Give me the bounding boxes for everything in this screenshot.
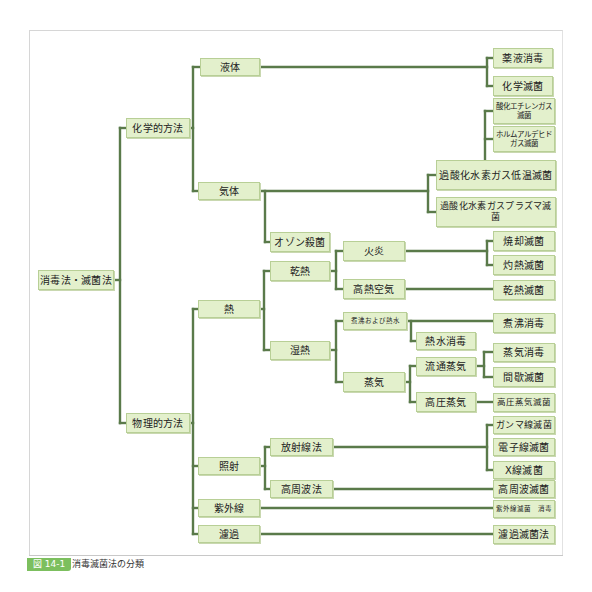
figure-number-badge: 図 14-1: [27, 558, 71, 571]
node-steam-disinfection: 蒸気消毒: [493, 343, 555, 362]
node-ultraviolet: 紫外線: [198, 499, 260, 517]
node-incineration: 焼却滅菌: [493, 231, 555, 251]
node-h2o2-low-temp: 過酸化水素ガス低温滅菌: [436, 160, 556, 190]
node-ethylene-oxide-gas: 酸化エチレンガス 滅菌: [493, 98, 555, 124]
node-ozone: オゾン殺菌: [270, 232, 330, 252]
node-radiation: 放射線法: [270, 438, 333, 456]
node-high-frequency: 高周波法: [270, 480, 333, 498]
node-heat: 熱: [198, 300, 260, 318]
node-flame: 火炎: [343, 241, 405, 261]
node-filtration-sterilization: 濾過滅菌法: [493, 525, 555, 544]
node-xray-sterilization: X線滅菌: [493, 461, 555, 479]
node-filtration: 濾過: [198, 525, 260, 543]
node-intermittent-sterilization: 間歇滅菌: [493, 367, 555, 387]
node-chemical-method: 化学的方法: [126, 118, 190, 138]
node-boiling-hot-water: 煮沸および熱水: [343, 312, 407, 330]
node-steam: 蒸気: [343, 372, 405, 392]
node-gas: 気体: [198, 182, 260, 200]
node-moist-heat: 湿熱: [270, 341, 330, 360]
node-dry-heat: 乾熱: [270, 261, 330, 281]
node-chemical-sterilization: 化学滅菌: [493, 76, 553, 96]
node-uv-sterilization-disinfection: 紫外線滅菌 消毒: [493, 500, 555, 518]
node-electron-beam-sterilization: 電子線滅菌: [493, 438, 555, 456]
node-h2o2-plasma: 過酸化水素ガスプラズマ滅菌: [436, 197, 556, 227]
figure-caption: 消毒滅菌法の分類: [72, 558, 144, 571]
node-formaldehyde-gas: ホルムアルデヒド ガス滅菌: [493, 126, 555, 152]
node-flowing-steam: 流通蒸気: [416, 357, 476, 376]
node-physical-method: 物理的方法: [126, 413, 190, 433]
node-gamma-sterilization: ガンマ線滅菌: [493, 416, 555, 434]
node-autoclave: 高圧蒸気: [416, 392, 476, 412]
node-autoclave-sterilization: 高圧蒸気滅菌: [493, 393, 555, 412]
node-irradiation: 照射: [198, 457, 260, 475]
node-boiling-disinfection: 煮沸消毒: [493, 313, 555, 333]
node-dry-heat-sterilization: 乾熱滅菌: [493, 280, 555, 300]
node-hot-air: 高熱空気: [343, 279, 405, 299]
node-chemical-disinfection: 薬液消毒: [493, 48, 553, 68]
node-high-frequency-sterilization: 高周波滅菌: [493, 480, 555, 498]
node-flaming: 灼熱滅菌: [493, 255, 555, 275]
node-hot-water-disinfection: 熱水消毒: [416, 332, 476, 350]
node-liquid: 液体: [200, 58, 260, 76]
node-root-disinfection-sterilization: 消毒法・滅菌法: [38, 270, 114, 290]
